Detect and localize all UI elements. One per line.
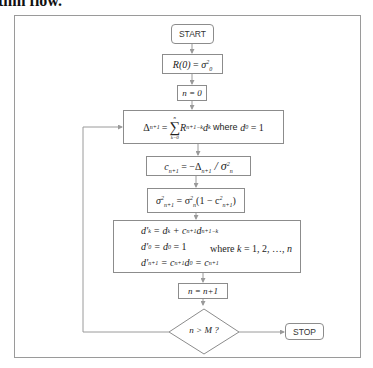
decision-label: n > M ? [169, 325, 239, 335]
delta-formula: Δn+1 = n ∑ k=0 Rn+1−k dk where d0 = 1 [143, 115, 264, 140]
update-node: d'k = dk + cn+1dn+1−k d'0 = d0 = 1 d'n+1… [113, 220, 301, 273]
stop-node: STOP [285, 323, 324, 340]
coefficient-node: cn+1 = −Δn+1 / σ2n [146, 156, 251, 176]
start-node: START [171, 24, 214, 44]
update-where-clause: where k = 1, 2, …, n [210, 243, 292, 254]
start-label: START [179, 29, 206, 39]
init-r-formula: R(0) = σ20 [173, 59, 212, 70]
update-line-2: d'0 = d0 = 1 [141, 239, 187, 255]
variance-formula: σ2n+1 = σ2n(1 − c2n+1) [156, 195, 236, 206]
increment-formula: n = n+1 [188, 286, 218, 296]
stop-label: STOP [293, 327, 316, 337]
init-n-node: n = 0 [177, 85, 207, 101]
init-r-node: R(0) = σ20 [162, 54, 223, 74]
delta-node: Δn+1 = n ∑ k=0 Rn+1−k dk where d0 = 1 [123, 110, 284, 144]
update-line-1: d'k = dk + cn+1dn+1−k [141, 223, 218, 239]
init-n-formula: n = 0 [182, 88, 202, 98]
update-line-3: d'n+1 = cn+1d0 = cn+1 [141, 255, 219, 271]
increment-node: n = n+1 [178, 283, 228, 299]
variance-node: σ2n+1 = σ2n(1 − c2n+1) [147, 188, 245, 213]
coefficient-formula: cn+1 = −Δn+1 / σ2n [164, 159, 233, 174]
